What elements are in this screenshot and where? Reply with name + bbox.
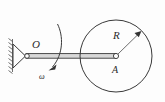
label-pivot-o: O <box>32 38 40 50</box>
label-radius-r: R <box>112 29 120 41</box>
rigid-rod-icon <box>26 54 116 59</box>
pin-support-icon <box>13 44 26 68</box>
label-disk-center-a: A <box>111 64 119 75</box>
ground-hatching-icon <box>9 39 13 74</box>
center-joint-icon <box>113 53 118 58</box>
radius-arrow-icon <box>118 31 142 55</box>
angular-velocity-arrow-icon <box>49 24 62 71</box>
mechanism-figure: O R A ω <box>0 0 165 102</box>
pivot-joint-icon <box>25 54 30 59</box>
diagram-canvas: O R A ω <box>0 0 165 102</box>
label-angular-velocity: ω <box>39 72 45 81</box>
